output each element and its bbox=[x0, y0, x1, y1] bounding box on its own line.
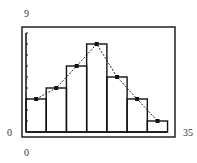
histogram-bar bbox=[107, 77, 127, 132]
histogram-bar bbox=[87, 44, 107, 132]
polygon-point-marker bbox=[135, 97, 139, 101]
histogram-bar bbox=[66, 66, 86, 132]
polygon-point-marker bbox=[95, 42, 99, 46]
polygon-point-marker bbox=[115, 75, 119, 79]
polygon-point-marker bbox=[156, 119, 160, 123]
polygon-point-marker bbox=[75, 64, 79, 68]
frequency-polygon bbox=[34, 42, 159, 123]
polygon-point-marker bbox=[34, 97, 38, 101]
histogram-plot bbox=[0, 0, 197, 163]
histogram-bar bbox=[26, 99, 46, 132]
histogram-bar bbox=[127, 99, 147, 132]
polygon-point-marker bbox=[54, 86, 58, 90]
histogram-bar bbox=[46, 88, 66, 132]
polygon-line bbox=[36, 44, 157, 121]
histogram-bars bbox=[26, 44, 168, 132]
